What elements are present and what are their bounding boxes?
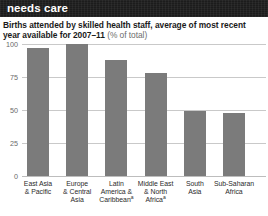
x-axis-label-line: Middle East [135, 180, 177, 188]
gridline-0 [22, 176, 266, 177]
x-axis-label-line: South [174, 180, 216, 188]
y-axis-tick-50: 50 [0, 107, 18, 114]
bar-4[interactable] [184, 111, 206, 176]
x-axis-label-line: Latin [95, 180, 137, 188]
x-axis-label-line: & Pacific [17, 188, 59, 196]
x-axis-label-line: & Central [56, 188, 98, 196]
bar-2[interactable] [105, 60, 127, 176]
y-axis-tick-25: 25 [0, 140, 18, 147]
bar-0[interactable] [27, 48, 49, 176]
x-axis-label-line: Africa [213, 188, 255, 196]
chart-plot-area: 0255075100East Asia& PacificEurope& Cent… [0, 0, 268, 216]
bar-5[interactable] [223, 113, 245, 176]
x-axis-label-2: LatinAmerica &Caribbeana [95, 180, 137, 204]
footnote-marker: a [131, 194, 134, 200]
x-axis-label-line: Sub-Saharan [213, 180, 255, 188]
x-axis-label-0: East Asia& Pacific [17, 180, 59, 196]
x-axis-label-3: Middle East& NorthAfricaa [135, 180, 177, 204]
x-axis-label-line: Asia [56, 196, 98, 204]
y-axis-tick-75: 75 [0, 74, 18, 81]
x-axis-label-line: East Asia [17, 180, 59, 188]
chart-page: needs care Births attended by skilled he… [0, 0, 268, 216]
x-axis-label-line: Africaa [135, 196, 177, 204]
x-axis-label-line: Europe [56, 180, 98, 188]
x-axis-label-1: Europe& CentralAsia [56, 180, 98, 204]
gridline-100 [22, 44, 266, 45]
y-axis-tick-100: 100 [0, 41, 18, 48]
x-axis-label-line: Caribbeana [95, 196, 137, 204]
x-axis-label-4: SouthAsia [174, 180, 216, 196]
x-axis-label-5: Sub-SaharanAfrica [213, 180, 255, 196]
y-axis-tick-0: 0 [0, 173, 18, 180]
x-axis-label-line: Asia [174, 188, 216, 196]
bar-1[interactable] [66, 44, 88, 176]
footnote-marker: a [163, 194, 166, 200]
bar-3[interactable] [145, 73, 167, 176]
x-axis-label-line: & North [135, 188, 177, 196]
